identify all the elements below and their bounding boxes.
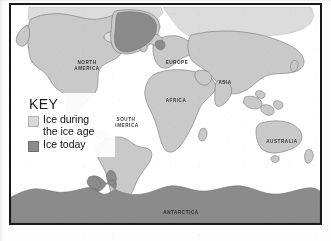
map-frame: .land{fill:#c9c9c9;stroke:#6d6d6d;stroke… [9, 3, 322, 225]
label-africa: AFRICA [159, 98, 193, 104]
key-title: KEY [29, 97, 111, 112]
label-europe: EUROPE [159, 60, 195, 66]
label-north-america: NORTH AMERICA [65, 60, 109, 71]
label-australia: AUSTRALIA [259, 139, 305, 145]
key-label-ice-age: Ice during the ice age [43, 114, 94, 137]
label-antarctica: ANTARCTICA [151, 210, 211, 216]
key-item-ice-today: Ice today [28, 139, 111, 152]
label-asia: ASIA [210, 80, 240, 86]
key-item-ice-age: Ice during the ice age [28, 114, 111, 137]
map-key: KEY Ice during the ice age Ice today [23, 93, 115, 157]
key-label-ice-today: Ice today [43, 139, 86, 151]
key-swatch-ice-age-icon [28, 116, 39, 127]
figure-root: .land{fill:#c9c9c9;stroke:#6d6d6d;stroke… [0, 0, 331, 241]
key-swatch-ice-today-icon [28, 141, 39, 152]
